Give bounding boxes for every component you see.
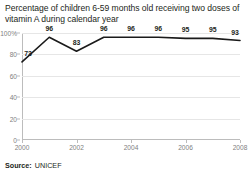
x-tick-label: 2002 [69, 144, 84, 151]
x-tick-label: 2004 [124, 144, 139, 151]
x-tick-label: 2000 [15, 144, 30, 151]
line-series [22, 33, 240, 140]
y-tick-label: 40 [10, 94, 17, 101]
data-point-label: 96 [154, 25, 162, 32]
y-tick-label: 60 [10, 72, 17, 79]
x-tick-mark [77, 140, 78, 143]
y-tick-mark [17, 75, 20, 76]
chart-title: Percentage of children 6-59 months old r… [5, 3, 243, 24]
y-tick-label: 80 [10, 51, 17, 58]
source-value: UNICEF [35, 161, 62, 170]
y-axis: 100%806040200 [0, 33, 20, 140]
plot-area: 739683969696959593 [22, 33, 240, 140]
y-tick-mark [17, 33, 20, 34]
data-point-label: 96 [45, 25, 53, 32]
data-point-label: 96 [100, 25, 108, 32]
x-tick-mark [22, 140, 23, 143]
data-point-label: 83 [73, 39, 81, 46]
x-axis: 20002002200420062008 [22, 140, 240, 154]
y-tick-mark [17, 54, 20, 55]
source-note: Source:UNICEF [5, 161, 62, 170]
y-tick-mark [17, 97, 20, 98]
data-point-label: 93 [231, 29, 239, 36]
y-tick-label: 20 [10, 115, 17, 122]
y-tick-mark [17, 140, 20, 141]
x-tick-label: 2008 [233, 144, 248, 151]
x-tick-mark [131, 140, 132, 143]
data-point-label: 73 [24, 50, 32, 57]
data-point-label: 96 [127, 25, 135, 32]
chart-figure: Percentage of children 6-59 months old r… [0, 0, 248, 179]
data-point-label: 95 [182, 26, 190, 33]
x-tick-mark [186, 140, 187, 143]
y-tick-label: 100% [0, 30, 17, 37]
series-line [22, 37, 240, 62]
y-tick-mark [17, 118, 20, 119]
data-point-label: 95 [209, 26, 217, 33]
x-tick-label: 2006 [178, 144, 193, 151]
x-tick-mark [240, 140, 241, 143]
source-label: Source: [5, 161, 32, 170]
